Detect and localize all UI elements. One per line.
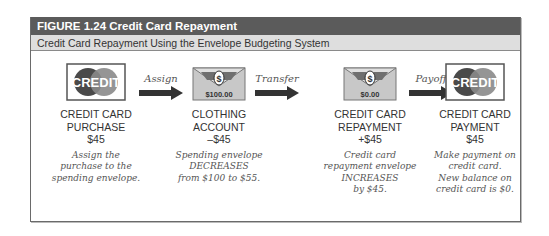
svg-text:CREDIT: CREDIT — [72, 75, 120, 90]
step-title: CREDIT CARD PURCHASE $45 — [41, 108, 151, 146]
step-description: Make payment on credit card. New balance… — [415, 150, 535, 196]
credit-card-icon: CREDIT — [66, 62, 126, 102]
envelope-icon: $ $100.00 — [191, 62, 247, 102]
step-description: Spending envelope DECREASES from $100 to… — [164, 150, 274, 185]
svg-text:$: $ — [367, 74, 372, 84]
svg-text:$: $ — [216, 74, 221, 84]
step-credit-card-payment: CREDIT CREDIT CARD PAYMENT $45 Make paym… — [415, 62, 535, 196]
step-title: CREDIT CARD PAYMENT $45 — [415, 108, 535, 146]
step-description: Assign the purchase to the spending enve… — [41, 150, 151, 185]
credit-card-icon: CREDIT — [445, 62, 505, 102]
figure-subtitle: Credit Card Repayment Using the Envelope… — [31, 35, 520, 51]
svg-text:$0.00: $0.00 — [361, 90, 380, 99]
svg-text:CREDIT: CREDIT — [451, 75, 499, 90]
figure-title: FIGURE 1.24 Credit Card Repayment — [31, 17, 520, 35]
figure-frame: FIGURE 1.24 Credit Card Repayment Credit… — [30, 17, 521, 222]
step-title: CREDIT CARD REPAYMENT +$45 — [315, 108, 425, 146]
right-arrow-icon — [255, 86, 299, 100]
step-description: Credit card repayment envelope INCREASES… — [315, 150, 425, 196]
step-title: CLOTHING ACCOUNT –$45 — [164, 108, 274, 146]
arrow-transfer: Transfer — [255, 73, 299, 99]
envelope-icon: $ $0.00 — [342, 62, 398, 102]
svg-text:$100.00: $100.00 — [205, 90, 232, 99]
step-credit-card-purchase: CREDIT CREDIT CARD PURCHASE $45 Assign t… — [41, 62, 151, 184]
